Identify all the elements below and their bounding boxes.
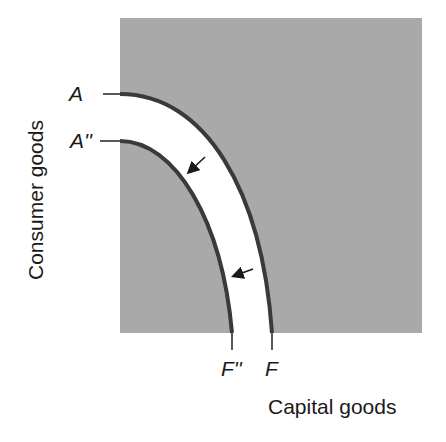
label-f: F	[265, 357, 279, 380]
label-a-double-prime: A''	[68, 129, 93, 152]
y-axis-label: Consumer goods	[24, 120, 47, 280]
x-axis-label: Capital goods	[268, 395, 396, 418]
ppf-diagram: A A'' F'' F Capital goods Consumer goods	[0, 0, 446, 442]
label-f-double-prime: F''	[221, 357, 243, 380]
shaded-region	[120, 18, 422, 333]
label-a: A	[67, 82, 83, 105]
